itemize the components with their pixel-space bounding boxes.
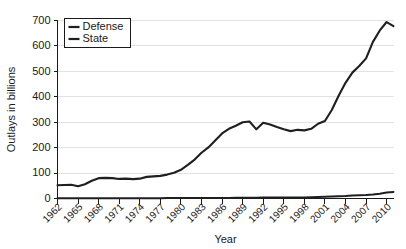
series-line-state	[58, 192, 394, 198]
x-tick-label: 1965	[61, 201, 85, 225]
x-tick-label: 1995	[267, 201, 291, 225]
x-tick-label: 1962	[40, 201, 64, 225]
x-tick-label: 2004	[328, 201, 352, 225]
x-tick-label: 1968	[82, 201, 106, 225]
y-tick-label: 300	[32, 116, 50, 128]
y-tick-label: 200	[32, 141, 50, 153]
x-tick-label: 2001	[308, 201, 332, 225]
x-axis: 1962196519681971197419771980198319861989…	[40, 199, 393, 225]
x-axis-title: Year	[214, 233, 237, 245]
chart-container: 0100200300400500600700196219651968197119…	[0, 0, 406, 249]
y-tick-label: 700	[32, 14, 50, 26]
x-tick-label: 2010	[370, 201, 394, 225]
x-tick-label: 1977	[143, 201, 167, 225]
x-tick-label: 1986	[205, 201, 229, 225]
x-tick-label: 1974	[123, 201, 147, 225]
y-axis-title: Outlays in billions	[5, 66, 17, 152]
legend-label-defense: Defense	[83, 20, 124, 32]
y-tick-label: 0	[44, 192, 50, 204]
y-tick-label: 500	[32, 65, 50, 77]
x-tick-label: 1980	[164, 201, 188, 225]
x-tick-label: 1989	[226, 201, 250, 225]
x-tick-label: 1983	[184, 201, 208, 225]
x-tick-label: 1992	[246, 201, 270, 225]
y-tick-label: 100	[32, 166, 50, 178]
y-tick-label: 600	[32, 39, 50, 51]
legend-label-state: State	[83, 32, 109, 44]
series-group	[58, 22, 394, 198]
x-tick-label: 2007	[349, 201, 373, 225]
line-chart: 0100200300400500600700196219651968197119…	[0, 0, 406, 249]
y-tick-label: 400	[32, 90, 50, 102]
legend: DefenseState	[65, 19, 131, 48]
x-tick-label: 1998	[287, 201, 311, 225]
y-axis: 0100200300400500600700	[32, 14, 57, 204]
x-tick-label: 1971	[102, 201, 126, 225]
